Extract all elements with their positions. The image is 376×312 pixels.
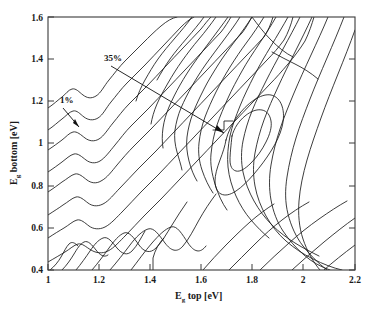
x-tick-label-0: 1 [46, 275, 51, 285]
y-tick-label-5: 1.4 [31, 54, 43, 64]
y-tick-label-4: 1.2 [31, 96, 43, 106]
x-tick-label-1: 1.2 [93, 275, 105, 285]
y-axis-label-rest: bottom [eV] [8, 121, 19, 175]
y-tick-label-3: 1 [38, 138, 43, 148]
contour-plot-svg: 1 1.2 1.4 1.6 1.8 2 2.2 0.4 0.6 0.8 1 1.… [0, 0, 376, 312]
contour-plot-figure: 1 1.2 1.4 1.6 1.8 2 2.2 0.4 0.6 0.8 1 1.… [0, 0, 376, 312]
annotation-35-percent-label: 35% [104, 53, 122, 63]
x-axis-label-rest: top [eV] [185, 290, 222, 301]
y-tick-label-6: 1.6 [31, 13, 43, 23]
x-tick-label-6: 2.2 [349, 275, 361, 285]
x-tick-label-5: 2 [301, 275, 306, 285]
annotation-1-percent-label: 1% [60, 95, 74, 105]
y-tick-label-1: 0.6 [31, 223, 43, 233]
y-tick-label-2: 0.8 [31, 181, 43, 191]
y-tick-label-0: 0.4 [31, 265, 43, 275]
x-tick-label-2: 1.4 [144, 275, 156, 285]
x-tick-label-4: 1.8 [246, 275, 258, 285]
x-tick-label-3: 1.6 [195, 275, 207, 285]
